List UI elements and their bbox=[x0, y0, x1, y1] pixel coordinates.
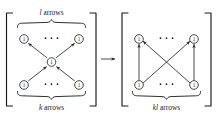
ellipsis-top bbox=[45, 37, 59, 39]
ellipsis-top bbox=[160, 37, 174, 39]
node-label: 1 bbox=[23, 36, 26, 42]
ellipsis-bottom bbox=[45, 83, 59, 85]
bottom-brace-label: k arrows bbox=[39, 103, 64, 112]
ellipsis-bottom bbox=[160, 83, 174, 85]
right-panel: 1 1 1 1 bbox=[122, 13, 211, 112]
bottom-brace-label: kl arrows bbox=[153, 103, 180, 112]
node-bottom-right: 1 bbox=[190, 81, 199, 90]
node-bottom-left: 1 bbox=[20, 81, 29, 90]
node-top-left: 1 bbox=[20, 35, 29, 44]
bottom-brace-label-text: arrows bbox=[158, 103, 180, 112]
right-panel-open-bracket bbox=[122, 13, 128, 106]
figure-container: 1 1 1 1 1 bbox=[0, 0, 216, 117]
node-bottom-right: 1 bbox=[75, 81, 84, 90]
top-brace-label-text: arrows bbox=[42, 8, 64, 17]
left-panel-close-bracket bbox=[90, 13, 96, 106]
node-center: 1 bbox=[47, 58, 56, 67]
left-panel-top-brace bbox=[18, 20, 86, 28]
node-label: 1 bbox=[78, 82, 81, 88]
edge-center-to-top-left bbox=[28, 43, 47, 58]
node-label: 1 bbox=[138, 36, 141, 42]
node-label: 1 bbox=[193, 82, 196, 88]
node-label: 1 bbox=[50, 59, 53, 65]
node-top-left: 1 bbox=[135, 35, 144, 44]
node-label: 1 bbox=[78, 36, 81, 42]
node-label: 1 bbox=[23, 82, 26, 88]
quiver-composition-figure: 1 1 1 1 1 bbox=[0, 0, 216, 117]
bottom-brace-label-text: arrows bbox=[42, 103, 64, 112]
node-bottom-left: 1 bbox=[135, 81, 144, 90]
left-panel: 1 1 1 1 1 bbox=[7, 8, 97, 113]
node-top-right: 1 bbox=[190, 35, 199, 44]
left-panel-open-bracket bbox=[7, 13, 13, 106]
node-top-right: 1 bbox=[75, 35, 84, 44]
edge-bottom-left-to-center bbox=[28, 67, 46, 81]
node-label: 1 bbox=[138, 82, 141, 88]
right-panel-close-bracket bbox=[205, 13, 211, 106]
right-panel-bottom-brace bbox=[133, 92, 201, 100]
left-panel-bottom-brace bbox=[18, 92, 86, 100]
edge-bottom-right-to-center bbox=[56, 67, 74, 81]
top-brace-label: l arrows bbox=[39, 8, 63, 17]
edge-center-to-top-right bbox=[56, 43, 75, 58]
node-label: 1 bbox=[193, 36, 196, 42]
